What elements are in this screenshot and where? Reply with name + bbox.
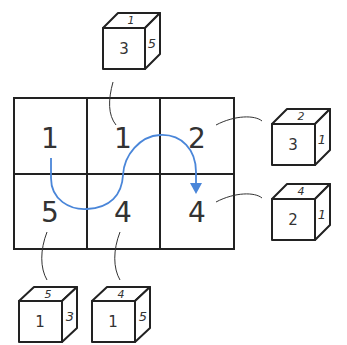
cell-1-0: 5 [41,196,59,229]
cube-top-middle-right: 5 [148,36,156,51]
arrowhead-icon [190,183,202,194]
cube-right-top-right: 1 [318,132,326,147]
cube-bottom-middle-top: 4 [118,288,125,301]
cube-right-bottom-right: 1 [318,207,326,222]
cube-right-top-top: 2 [298,110,305,123]
cube-bottom-middle-right: 5 [139,309,147,324]
cell-1-1: 4 [114,196,132,229]
cell-0-1: 1 [114,122,132,155]
cube-right-bottom-front: 2 [288,211,298,229]
cell-0-0: 1 [41,122,59,155]
cube-right-bottom-top: 4 [298,185,305,198]
dice-rolling-diagram: 1 1 2 5 4 4 3 5 1 3 1 2 2 1 4 [0,0,347,345]
cube-top-middle-top: 1 [128,14,135,27]
cube-top-middle-front: 3 [119,40,129,58]
connectors [42,82,262,280]
cube-bottom-left-top: 5 [45,288,52,301]
cube-bottom-left-front: 1 [35,313,45,331]
cube-bottom-left-right: 3 [66,309,74,324]
cell-1-2: 4 [188,196,206,229]
cube-right-top-front: 3 [288,136,298,154]
cube-bottom-middle-front: 1 [108,313,118,331]
